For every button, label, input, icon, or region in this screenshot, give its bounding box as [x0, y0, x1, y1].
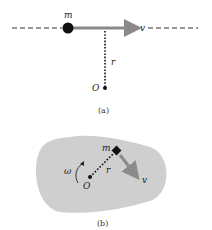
origin-label: O — [83, 181, 91, 191]
mass-label: m — [64, 10, 73, 20]
velocity-label: v — [140, 23, 145, 33]
angular-momentum-diagram: m v r O (a) ω m r O v (b) — [0, 0, 212, 230]
panel-a: m v r O (a) — [12, 10, 198, 115]
velocity-label: v — [142, 175, 147, 185]
mass-label: m — [102, 143, 111, 153]
caption-a: (a) — [98, 106, 109, 115]
origin-label: O — [92, 83, 100, 93]
radius-label: r — [106, 165, 111, 175]
caption-b: (b) — [97, 219, 108, 228]
panel-b: ω m r O v (b) — [36, 136, 166, 228]
origin-point — [88, 175, 92, 179]
angular-velocity-label: ω — [64, 166, 72, 176]
origin-point — [103, 86, 107, 90]
mass-point — [63, 23, 74, 34]
radius-label: r — [111, 57, 116, 67]
